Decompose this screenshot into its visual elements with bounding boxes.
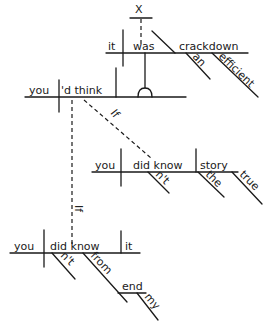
second-if-connector-label: If — [72, 205, 85, 213]
prep-modifier-my: my — [142, 291, 163, 313]
main-verb: 'd think — [61, 84, 103, 97]
second-verb: did know — [50, 240, 100, 253]
if-verb: did know — [133, 159, 183, 172]
pedestal — [138, 88, 152, 97]
placeholder-x: X — [135, 3, 143, 16]
if-connector-label: If — [108, 107, 123, 122]
main-clause: you 'd think If If — [25, 68, 186, 246]
modifier-true: true — [237, 168, 262, 193]
if-clause: you did know story n't the true — [92, 149, 262, 204]
second-object: it — [125, 240, 133, 253]
if-subject: you — [95, 159, 115, 172]
top-predicate-noun: crackdown — [179, 40, 238, 53]
top-clause: X it was crackdown an efficient — [106, 3, 258, 97]
second-if-clause: you did know it n't from end my — [10, 230, 163, 320]
top-subject: it — [108, 40, 116, 53]
second-subject: you — [14, 240, 34, 253]
main-subject: you — [29, 84, 49, 97]
sentence-diagram: X it was crackdown an efficient you 'd t… — [0, 0, 275, 330]
top-verb: was — [133, 40, 155, 53]
prep-object-end: end — [122, 280, 143, 293]
modifier-efficient: efficient — [216, 50, 258, 91]
predicate-noun-divider — [152, 31, 175, 53]
